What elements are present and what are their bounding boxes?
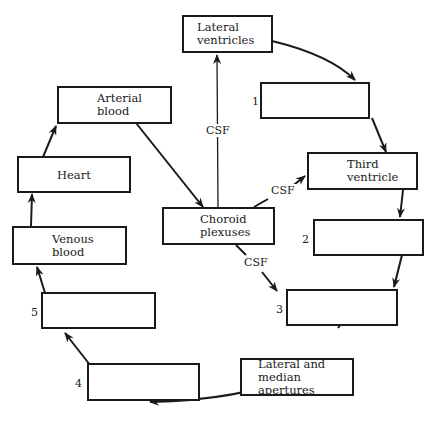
edge-label-csf-three: CSF — [243, 256, 269, 269]
edge-label-csf-third: CSF — [270, 184, 296, 197]
label-number-1: 1 — [252, 95, 259, 108]
box-blank-2[interactable] — [313, 219, 424, 256]
box-arterial-blood: Arterial blood — [57, 86, 172, 124]
box-lateral-median-apertures: Lateral and median apertures — [240, 358, 354, 396]
label-number-4: 4 — [75, 377, 82, 390]
box-blank-3[interactable] — [286, 289, 398, 326]
box-label: Arterial blood — [59, 92, 170, 118]
box-lateral-ventricles: Lateral ventricles — [182, 15, 273, 53]
box-label: Third ventricle — [309, 158, 416, 184]
label-number-3: 3 — [276, 303, 283, 316]
edge-label-csf-lateral: CSF — [205, 124, 231, 137]
box-heart: Heart — [17, 156, 131, 193]
box-third-ventricle: Third ventricle — [307, 152, 418, 190]
box-blank-1[interactable] — [260, 82, 370, 119]
box-label: Lateral ventricles — [184, 21, 271, 47]
box-blank-5[interactable] — [41, 292, 156, 329]
label-number-5: 5 — [31, 306, 38, 319]
box-venous-blood: Venous blood — [12, 226, 127, 265]
box-label: Lateral and median apertures — [242, 358, 352, 397]
box-label: Choroid plexuses — [164, 213, 273, 239]
box-label: Heart — [19, 168, 129, 181]
label-number-2: 2 — [302, 233, 309, 246]
box-blank-4[interactable] — [87, 363, 200, 401]
box-label: Venous blood — [14, 233, 125, 259]
box-choroid-plexuses: Choroid plexuses — [162, 207, 275, 245]
